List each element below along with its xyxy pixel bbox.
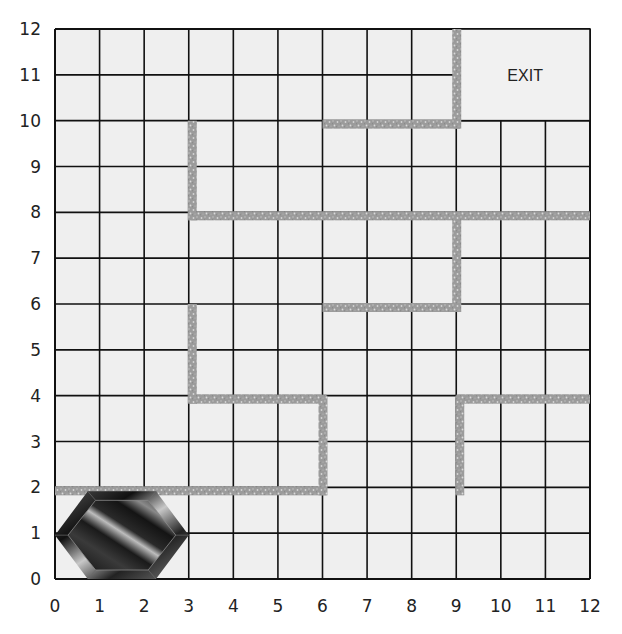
- y-axis-tick-label: 1: [30, 523, 41, 543]
- y-axis-labels: 0123456789101112: [19, 19, 41, 589]
- x-axis-tick-label: 4: [228, 596, 239, 616]
- y-axis-tick-label: 3: [30, 432, 41, 452]
- x-axis-tick-label: 0: [50, 596, 61, 616]
- x-axis-tick-label: 5: [273, 596, 284, 616]
- maze-wall: [323, 120, 461, 129]
- maze-wall: [188, 304, 197, 404]
- maze-wall: [452, 29, 461, 129]
- y-axis-tick-label: 7: [30, 248, 41, 268]
- y-axis-tick-label: 8: [30, 202, 41, 222]
- maze-wall: [452, 212, 461, 312]
- exit-zone: EXIT: [456, 29, 590, 121]
- maze-board: EXIT 0123456789101112 0123456789101112: [0, 0, 622, 634]
- x-axis-tick-label: 8: [406, 596, 417, 616]
- x-axis-tick-label: 11: [535, 596, 557, 616]
- y-axis-tick-label: 12: [19, 19, 41, 39]
- x-axis-tick-label: 12: [579, 596, 601, 616]
- x-axis-labels: 0123456789101112: [50, 596, 601, 616]
- y-axis-tick-label: 2: [30, 477, 41, 497]
- y-axis-tick-label: 5: [30, 340, 41, 360]
- y-axis-tick-label: 9: [30, 157, 41, 177]
- maze-wall: [189, 211, 590, 220]
- x-axis-tick-label: 9: [451, 596, 462, 616]
- x-axis-tick-label: 1: [94, 596, 105, 616]
- x-axis-tick-label: 2: [139, 596, 150, 616]
- x-axis-tick-label: 7: [362, 596, 373, 616]
- exit-label: EXIT: [507, 67, 543, 84]
- x-axis-tick-label: 3: [183, 596, 194, 616]
- maze-wall: [188, 121, 197, 221]
- maze-wall: [455, 396, 464, 496]
- y-axis-tick-label: 6: [30, 294, 41, 314]
- y-axis-tick-label: 10: [19, 111, 41, 131]
- maze-wall: [189, 395, 327, 404]
- x-axis-tick-label: 6: [317, 596, 328, 616]
- maze-wall: [323, 303, 461, 312]
- y-axis-tick-label: 0: [30, 569, 41, 589]
- y-axis-tick-label: 11: [19, 65, 41, 85]
- maze-wall: [319, 396, 328, 496]
- y-axis-tick-label: 4: [30, 386, 41, 406]
- x-axis-tick-label: 10: [490, 596, 512, 616]
- maze-wall: [456, 395, 590, 404]
